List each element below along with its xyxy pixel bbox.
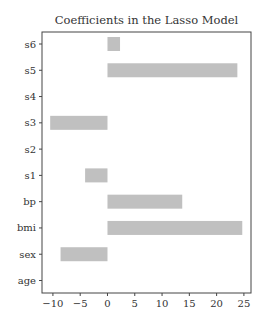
- x-tick-label: 0: [104, 298, 110, 309]
- bar-s1: [85, 168, 107, 182]
- y-tick-label-bp: bp: [23, 196, 36, 207]
- lasso-coefficients-chart: Coefficients in the Lasso Model agesexbm…: [0, 0, 269, 329]
- y-tick-label-age: age: [18, 275, 36, 286]
- x-tick-label: −5: [73, 298, 88, 309]
- bar-bp: [107, 195, 182, 209]
- x-tick-label: 10: [156, 298, 169, 309]
- y-axis: agesexbmibps1s2s3s4s5s6: [17, 39, 42, 287]
- x-tick-label: 25: [238, 298, 251, 309]
- x-axis: −10−50510152025: [42, 293, 250, 309]
- bar-s6: [107, 37, 120, 51]
- bars-group: [50, 37, 242, 261]
- bar-s5: [107, 63, 237, 77]
- y-tick-label-s2: s2: [25, 144, 37, 155]
- bar-bmi: [107, 221, 242, 235]
- chart-title: Coefficients in the Lasso Model: [55, 13, 239, 27]
- bar-s3: [50, 116, 107, 130]
- y-tick-label-s5: s5: [25, 65, 37, 76]
- x-tick-label: 15: [183, 298, 196, 309]
- y-tick-label-s3: s3: [25, 117, 37, 128]
- x-tick-label: 20: [210, 298, 223, 309]
- y-tick-label-bmi: bmi: [17, 222, 36, 233]
- y-tick-label-s1: s1: [25, 170, 37, 181]
- y-tick-label-s4: s4: [25, 91, 37, 102]
- x-tick-label: 5: [132, 298, 138, 309]
- x-tick-label: −10: [42, 298, 63, 309]
- y-tick-label-s6: s6: [25, 39, 37, 50]
- bar-sex: [61, 247, 108, 261]
- y-tick-label-sex: sex: [19, 249, 36, 260]
